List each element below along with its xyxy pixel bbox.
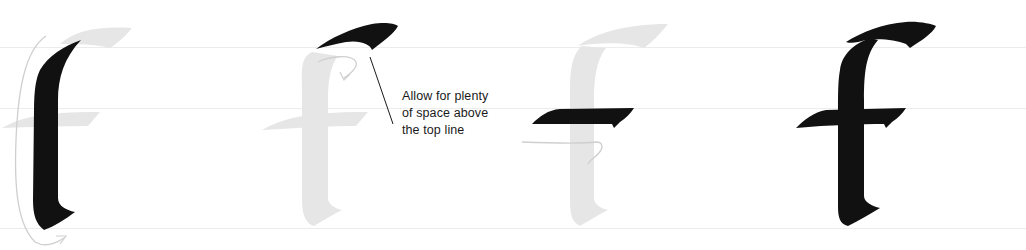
- annotation-leader-line: [370, 57, 393, 124]
- annotation-line-2: of space above: [402, 105, 542, 122]
- annotation-line-1: Allow for plenty: [402, 88, 542, 105]
- step-3-crossbar: [522, 24, 668, 226]
- step-4-completed-letter: [796, 22, 936, 226]
- calligraphy-diagram: Allow for plenty of space above the top …: [0, 0, 1026, 250]
- annotation-note: Allow for plenty of space above the top …: [402, 88, 542, 139]
- step-2-top-hook: [262, 23, 398, 226]
- step-1-stem: [2, 28, 132, 245]
- annotation-line-3: the top line: [402, 122, 542, 139]
